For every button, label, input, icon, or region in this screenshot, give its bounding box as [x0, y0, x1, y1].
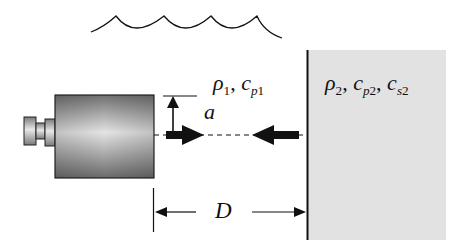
transducer-body [55, 95, 154, 178]
incident-wave-arrow [166, 125, 204, 145]
fluid-properties-label: ρ1, cp1 [213, 70, 264, 99]
distance-left-arrow [155, 207, 196, 217]
distance-right-arrow [252, 207, 306, 217]
radius-arrow [167, 96, 179, 135]
reflected-wave-arrow [252, 125, 299, 145]
radius-label: a [204, 99, 215, 125]
distance-label: D [215, 198, 232, 224]
solid-properties-label: ρ2, cp2, cs2 [325, 70, 409, 99]
water-surface-wave [91, 16, 282, 38]
transducer-connector [24, 117, 55, 146]
